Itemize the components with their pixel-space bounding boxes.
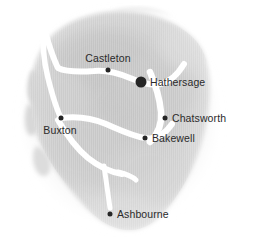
city-dot-castleton	[106, 68, 111, 73]
city-label-ashbourne: Ashbourne	[117, 208, 169, 220]
road-northwest-tail	[33, 23, 44, 28]
city-label-castleton: Castleton	[85, 52, 130, 64]
city-label-hathersage: Hathersage	[150, 76, 205, 88]
city-label-bakewell: Bakewell	[152, 132, 195, 144]
city-label-buxton: Buxton	[43, 124, 76, 136]
city-dot-chatsworth	[163, 116, 168, 121]
city-dot-bakewell	[143, 136, 148, 141]
city-dot-hathersage	[136, 77, 147, 88]
city-dot-ashbourne	[108, 212, 113, 217]
city-dot-buxton	[59, 116, 64, 121]
city-label-chatsworth: Chatsworth	[172, 112, 226, 124]
map-figure: Castleton Hathersage Chatsworth Bakewell…	[0, 0, 253, 242]
